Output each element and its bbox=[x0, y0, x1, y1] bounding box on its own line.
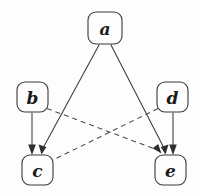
node-e-label: e bbox=[165, 161, 176, 181]
edge-b-to-e-line bbox=[47, 109, 158, 151]
node-c[interactable]: c bbox=[22, 155, 53, 185]
node-a-label: a bbox=[99, 19, 110, 39]
node-c-label: c bbox=[32, 161, 43, 181]
edge-a-to-c-line bbox=[43, 45, 100, 149]
edge-d-to-e-arrowhead bbox=[169, 145, 177, 156]
edge-d-to-e bbox=[169, 113, 177, 155]
graph-canvas: a b d c e bbox=[0, 0, 200, 194]
edge-d-to-c-line bbox=[53, 109, 158, 161]
edge-b-to-e-dashed bbox=[47, 109, 162, 154]
edge-a-to-e-arrowhead bbox=[161, 144, 169, 154]
edge-d-to-c-dashed bbox=[53, 109, 158, 161]
edge-b-to-c-arrowhead bbox=[28, 145, 36, 156]
edge-b-to-c bbox=[28, 113, 36, 155]
node-a[interactable]: a bbox=[88, 12, 122, 44]
edge-a-to-c-arrowhead bbox=[39, 145, 47, 155]
node-d[interactable]: d bbox=[157, 82, 188, 112]
node-d-label: d bbox=[167, 88, 179, 108]
edge-b-to-e-arrowhead bbox=[153, 144, 162, 154]
node-b[interactable]: b bbox=[17, 82, 48, 112]
node-layer: a b d c e bbox=[17, 12, 188, 185]
edge-layer bbox=[28, 45, 177, 160]
node-b-label: b bbox=[27, 88, 39, 108]
node-e[interactable]: e bbox=[155, 155, 186, 185]
graph-diagram: a b d c e bbox=[0, 0, 200, 194]
